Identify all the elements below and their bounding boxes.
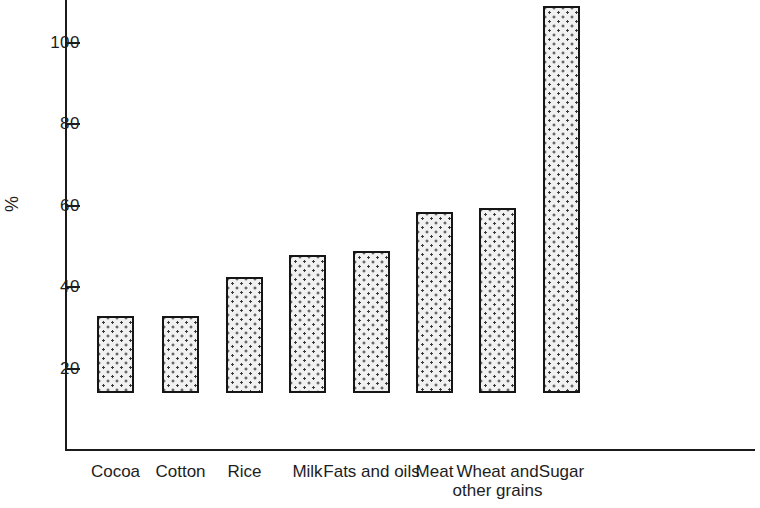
plot-area [0,0,760,451]
bar-milk [289,255,326,393]
bar-chart: % 20406080100 CocoaCottonRiceMilkFats an… [0,0,760,508]
bar-cocoa [97,316,134,393]
x-label-sugar: Sugar [482,462,642,481]
bar-fats-and-oils [353,251,390,393]
bar-meat [416,212,453,393]
bar-cotton [162,316,199,393]
bar-wheat-and-other-grains [479,208,516,393]
bar-rice [226,277,263,393]
bar-sugar [543,6,580,393]
x-label-line: other grains [418,481,578,500]
x-label-line: Sugar [539,462,584,481]
